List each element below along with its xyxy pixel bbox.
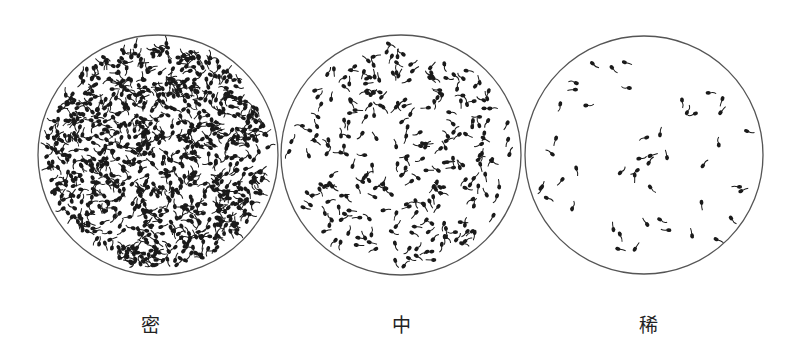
sperm-cell-icon [401,259,411,269]
sperm-cell-icon [229,104,240,110]
sperm-cell-icon [538,180,546,191]
sperm-cell-icon [352,108,363,112]
sperm-cell-icon [462,236,473,245]
sperm-cell-icon [311,137,322,146]
sperm-cell-icon [218,85,229,91]
sperm-cell-icon [369,227,374,238]
sperm-cell-icon [158,147,169,156]
sperm-cell-icon [425,226,436,235]
sperm-cell-icon [227,162,232,173]
sperm-cell-icon [250,200,261,204]
sperm-cell-icon [348,68,359,73]
sperm-cell-icon [78,147,89,151]
sperm-cell-icon [611,221,616,232]
sperm-cell-icon [689,228,695,239]
sperm-cell-icon [107,235,118,242]
sperm-cell-icon [393,60,404,69]
sperm-cell-icon [478,161,484,172]
sperm-cell-icon [170,118,175,129]
sperm-cell-icon [233,230,244,239]
sperm-cell-icon [433,145,444,155]
label-sparse: 稀 [628,310,668,337]
sperm-cell-icon [354,243,365,248]
sperm-cell-icon [239,171,247,182]
sperm-cell-icon [98,189,108,200]
sperm-cell-icon [325,197,336,204]
sperm-cell-icon [99,218,110,225]
sperm-cell-icon [392,240,399,251]
sperm-cell-icon [568,79,579,86]
sperm-cell-icon [329,91,334,102]
sperm-cell-icon [350,158,357,169]
sperm-cell-icon [339,128,343,139]
sperm-cell-icon [182,235,193,240]
sperm-cell-icon [124,65,129,76]
sperm-cell-icon [388,229,399,237]
sperm-cell-icon [152,81,163,86]
sperm-cell-icon [352,216,363,220]
sperm-cell-icon [404,178,415,187]
sperm-cell-icon [395,161,400,172]
sperm-cell-icon [446,110,457,116]
sperm-cell-icon [442,61,448,72]
sperm-cell-icon [233,84,244,91]
sperm-cell-icon [175,229,186,237]
sperm-cell-icon [312,118,320,129]
sperm-cell-icon [76,78,86,88]
sperm-cell-icon [543,195,554,203]
sperm-cell-icon [413,242,423,252]
sperm-cell-icon [366,240,377,246]
sperm-cell-icon [181,218,192,223]
label-medium: 中 [381,310,421,337]
sperm-cell-icon [172,198,177,209]
sperm-cell-icon [455,81,461,92]
sperm-cell-icon [98,146,109,156]
sperm-cell-icon [438,191,449,197]
sperm-cell-icon [497,179,502,190]
sperm-cell-icon [398,169,409,179]
sperm-cell-icon [432,203,442,214]
sperm-cell-icon [459,98,463,109]
sperm-cell-icon [125,224,136,231]
sperm-cell-icon [462,185,473,192]
sperm-cell-icon [387,53,395,64]
sperm-cell-icon [380,207,391,212]
sperm-cell-icon [288,134,297,145]
sperm-cell-icon [621,85,632,90]
sperm-cell-icon [632,241,641,252]
sperm-cell-icon [476,183,481,194]
sperm-cell-icon [346,225,353,236]
sperm-cell-icon [728,215,738,226]
sperm-cell-icon [617,231,624,242]
sperm-cell-icon [87,199,98,205]
sperm-cell-icon [109,71,120,75]
sperm-cell-icon [706,91,717,95]
sperm-cell-icon [636,155,647,161]
sperm-cell-icon [462,131,473,139]
sperm-cell-icon [66,214,75,225]
sperm-cell-icon [384,44,392,55]
sperm-cell-icon [125,149,136,154]
sperm-cell-icon [321,205,328,216]
sperm-cell-icon [310,111,321,120]
sperm-cell-icon [482,117,491,128]
sperm-cell-icon [718,96,725,107]
sperm-cell-icon [304,148,311,159]
sperm-cell-icon [556,176,566,187]
sperm-cell-icon [61,206,71,216]
sperm-cell-icon [385,41,396,49]
sperm-cell-icon [716,137,721,148]
sperm-cell-icon [165,197,172,208]
sperm-cell-icon [431,165,442,174]
sperm-cell-icon [371,131,380,142]
sperm-cell-icon [108,77,119,85]
sperm-cell-icon [393,138,399,149]
sperm-cell-icon [41,165,52,172]
sperm-cell-icon [345,119,350,130]
sperm-cell-icon [116,227,127,236]
sperm-cell-icon [410,209,420,220]
sperm-cell-icon [392,257,399,268]
sperm-cell-icon [455,94,466,98]
sperm-cell-icon [633,172,637,183]
sperm-cell-icon [463,68,474,73]
